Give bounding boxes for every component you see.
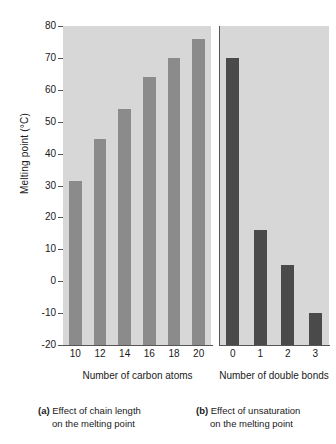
x-axis-line-panel-a [63, 345, 213, 346]
bar [94, 139, 107, 345]
caption-panel-b-tag: (b) [196, 405, 208, 416]
x-axis-title-panel-b-line2: double bonds [269, 370, 329, 381]
y-tick-label: 70 [28, 53, 56, 63]
y-tick-label: -20 [28, 340, 56, 350]
plot-area-panel-a [63, 26, 211, 345]
caption-panel-a-tag: (a) [38, 405, 50, 416]
x-tick-label: 1 [247, 347, 275, 361]
bar [118, 109, 131, 345]
x-tick-label: 3 [302, 347, 330, 361]
caption-panel-a-text1: Effect of chain length [52, 405, 141, 416]
bar [281, 265, 294, 345]
y-axis-line-panel-b [219, 26, 220, 346]
x-tick-label: 14 [112, 347, 137, 361]
caption-panel-a-line1: (a) Effect of chain length [38, 404, 208, 417]
caption-panel-b-line2: on the melting point [196, 417, 336, 430]
y-tick-label: 50 [28, 117, 56, 127]
caption-panel-b: (b) Effect of unsaturation on the meltin… [196, 404, 336, 430]
bar-series-panel-b [219, 26, 329, 345]
caption-panel-b-line1: (b) Effect of unsaturation [196, 404, 336, 417]
x-axis-tick-labels-panel-b: 0123 [219, 347, 329, 361]
x-tick-label: 12 [88, 347, 113, 361]
x-tick-label: 18 [162, 347, 187, 361]
bar [226, 58, 239, 345]
y-tick-label: 20 [28, 212, 56, 222]
bar-series-panel-a [63, 26, 211, 345]
x-tick-label: 2 [274, 347, 302, 361]
x-axis-title-panel-b-line1: Number of [219, 370, 266, 381]
y-axis-tick-labels: 80706050403020100-10-20 [28, 0, 56, 360]
bar [254, 230, 267, 345]
caption-panel-a-line2: on the melting point [38, 417, 208, 430]
y-tick-label: 10 [28, 244, 56, 254]
x-axis-tick-labels-panel-a: 101214161820 [63, 347, 211, 361]
x-axis-line-panel-b [219, 345, 330, 346]
y-tick-label: 0 [28, 276, 56, 286]
figure-melting-point-charts: Melting point (°C) 80706050403020100-10-… [0, 0, 336, 444]
bar [192, 39, 205, 345]
x-tick-label: 0 [219, 347, 247, 361]
y-tick-label: 30 [28, 181, 56, 191]
plot-area-panel-b [219, 26, 329, 345]
caption-panel-b-text1: Effect of unsaturation [211, 405, 301, 416]
x-tick-label: 16 [137, 347, 162, 361]
y-tick-label: -10 [28, 308, 56, 318]
x-tick-label: 10 [63, 347, 88, 361]
bar [143, 77, 156, 345]
x-tick-label: 20 [186, 347, 211, 361]
y-tick-label: 80 [28, 21, 56, 31]
y-tick-label: 40 [28, 149, 56, 159]
caption-panel-a: (a) Effect of chain length on the meltin… [38, 404, 208, 430]
y-tick-label: 60 [28, 85, 56, 95]
bar [168, 58, 181, 345]
bar [309, 313, 322, 345]
x-axis-title-panel-a: Number of carbon atoms [40, 369, 235, 382]
x-axis-title-panel-b: Number of double bonds [216, 369, 332, 382]
bar [69, 181, 82, 345]
